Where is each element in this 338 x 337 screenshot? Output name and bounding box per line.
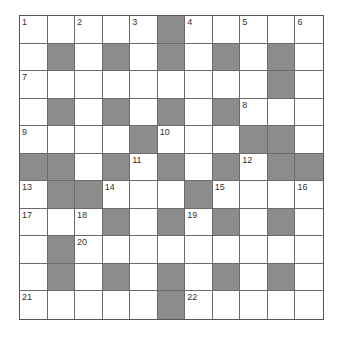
letter-cell[interactable]: 20 — [75, 236, 103, 264]
letter-cell[interactable] — [20, 264, 48, 292]
letter-cell[interactable] — [20, 99, 48, 127]
letter-cell[interactable] — [185, 236, 213, 264]
letter-cell[interactable] — [240, 291, 268, 319]
letter-cell[interactable] — [295, 71, 323, 99]
letter-cell[interactable]: 4 — [185, 16, 213, 44]
letter-cell[interactable]: 15 — [213, 181, 241, 209]
letter-cell[interactable]: 7 — [20, 71, 48, 99]
letter-cell[interactable]: 21 — [20, 291, 48, 319]
clue-number: 6 — [297, 18, 302, 27]
letter-cell[interactable] — [268, 99, 296, 127]
letter-cell[interactable] — [20, 44, 48, 72]
block-cell — [103, 99, 131, 127]
letter-cell[interactable]: 14 — [103, 181, 131, 209]
letter-cell[interactable] — [48, 71, 76, 99]
block-cell — [48, 264, 76, 292]
letter-cell[interactable] — [213, 291, 241, 319]
letter-cell[interactable] — [185, 44, 213, 72]
letter-cell[interactable] — [185, 264, 213, 292]
block-cell — [75, 181, 103, 209]
letter-cell[interactable] — [240, 44, 268, 72]
block-cell — [268, 71, 296, 99]
letter-cell[interactable]: 16 — [295, 181, 323, 209]
letter-cell[interactable]: 19 — [185, 209, 213, 237]
letter-cell[interactable] — [295, 264, 323, 292]
letter-cell[interactable] — [240, 209, 268, 237]
clue-number: 21 — [22, 293, 32, 302]
block-cell — [48, 154, 76, 182]
block-cell — [213, 44, 241, 72]
letter-cell[interactable] — [268, 291, 296, 319]
letter-cell[interactable] — [158, 71, 186, 99]
letter-cell[interactable] — [75, 126, 103, 154]
letter-cell[interactable]: 13 — [20, 181, 48, 209]
clue-number: 7 — [22, 73, 27, 82]
letter-cell[interactable]: 6 — [295, 16, 323, 44]
letter-cell[interactable] — [130, 44, 158, 72]
letter-cell[interactable] — [130, 264, 158, 292]
letter-cell[interactable] — [240, 236, 268, 264]
letter-cell[interactable] — [130, 181, 158, 209]
letter-cell[interactable] — [103, 291, 131, 319]
letter-cell[interactable] — [213, 16, 241, 44]
letter-cell[interactable] — [103, 16, 131, 44]
letter-cell[interactable]: 1 — [20, 16, 48, 44]
letter-cell[interactable]: 8 — [240, 99, 268, 127]
letter-cell[interactable]: 22 — [185, 291, 213, 319]
letter-cell[interactable] — [130, 209, 158, 237]
letter-cell[interactable] — [158, 181, 186, 209]
block-cell — [268, 209, 296, 237]
letter-cell[interactable] — [295, 236, 323, 264]
letter-cell[interactable] — [20, 236, 48, 264]
letter-cell[interactable] — [48, 16, 76, 44]
letter-cell[interactable] — [48, 291, 76, 319]
letter-cell[interactable] — [48, 209, 76, 237]
letter-cell[interactable] — [268, 236, 296, 264]
letter-cell[interactable]: 5 — [240, 16, 268, 44]
letter-cell[interactable] — [185, 126, 213, 154]
letter-cell[interactable] — [213, 236, 241, 264]
letter-cell[interactable] — [213, 71, 241, 99]
letter-cell[interactable] — [103, 236, 131, 264]
letter-cell[interactable] — [130, 236, 158, 264]
letter-cell[interactable] — [75, 291, 103, 319]
clue-number: 14 — [105, 183, 115, 192]
letter-cell[interactable]: 18 — [75, 209, 103, 237]
letter-cell[interactable] — [295, 291, 323, 319]
letter-cell[interactable] — [130, 99, 158, 127]
letter-cell[interactable] — [240, 181, 268, 209]
letter-cell[interactable] — [103, 71, 131, 99]
letter-cell[interactable] — [213, 126, 241, 154]
letter-cell[interactable]: 12 — [240, 154, 268, 182]
block-cell — [48, 99, 76, 127]
clue-number: 20 — [77, 238, 87, 247]
letter-cell[interactable] — [268, 181, 296, 209]
letter-cell[interactable] — [75, 154, 103, 182]
letter-cell[interactable] — [295, 209, 323, 237]
letter-cell[interactable] — [130, 291, 158, 319]
letter-cell[interactable] — [75, 264, 103, 292]
letter-cell[interactable] — [75, 71, 103, 99]
letter-cell[interactable] — [240, 264, 268, 292]
letter-cell[interactable] — [103, 126, 131, 154]
letter-cell[interactable] — [268, 16, 296, 44]
letter-cell[interactable] — [295, 126, 323, 154]
letter-cell[interactable] — [130, 71, 158, 99]
letter-cell[interactable] — [75, 99, 103, 127]
letter-cell[interactable] — [75, 44, 103, 72]
letter-cell[interactable]: 2 — [75, 16, 103, 44]
letter-cell[interactable] — [48, 126, 76, 154]
clue-number: 16 — [297, 183, 307, 192]
letter-cell[interactable] — [295, 99, 323, 127]
letter-cell[interactable] — [185, 99, 213, 127]
letter-cell[interactable] — [185, 71, 213, 99]
letter-cell[interactable] — [158, 236, 186, 264]
letter-cell[interactable]: 3 — [130, 16, 158, 44]
letter-cell[interactable] — [295, 44, 323, 72]
letter-cell[interactable]: 10 — [158, 126, 186, 154]
letter-cell[interactable]: 17 — [20, 209, 48, 237]
letter-cell[interactable] — [240, 71, 268, 99]
letter-cell[interactable] — [185, 154, 213, 182]
letter-cell[interactable]: 9 — [20, 126, 48, 154]
letter-cell[interactable]: 11 — [130, 154, 158, 182]
